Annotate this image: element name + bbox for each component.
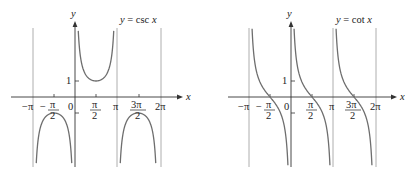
figure: y x y = csc x 1 0 −π π 2π − π 2 π 2 3π 2 bbox=[0, 0, 411, 185]
x-tick-label-neg-half-pi: − π 2 bbox=[256, 99, 275, 121]
y-axis-arrow-icon bbox=[289, 21, 294, 27]
svg-text:2: 2 bbox=[50, 110, 55, 121]
svg-text:π: π bbox=[308, 99, 314, 110]
chart-title: y = cot x bbox=[335, 14, 372, 25]
x-tick-label-half-pi: π 2 bbox=[90, 99, 101, 121]
y-tick-label-1: 1 bbox=[66, 75, 71, 86]
svg-text:2: 2 bbox=[266, 110, 271, 121]
x-axis-arrow-icon bbox=[391, 95, 397, 100]
x-tick-label-neg-pi: −π bbox=[22, 101, 34, 112]
y-axis-label: y bbox=[286, 8, 292, 19]
x-tick-label-three-half-pi: 3π 2 bbox=[130, 99, 146, 121]
x-tick-label-neg-half-pi: − π 2 bbox=[40, 99, 59, 121]
x-tick-label-pi: π bbox=[113, 101, 119, 112]
svg-text:π: π bbox=[50, 99, 56, 110]
csc-chart: y x y = csc x 1 0 −π π 2π − π 2 π 2 3π 2 bbox=[11, 8, 191, 167]
x-tick-label-pi: π bbox=[329, 101, 335, 112]
chart-title: y = csc x bbox=[119, 14, 157, 25]
cot-chart: y x y = cot x 1 0 −π π 2π − π 2 π 2 3π 2 bbox=[228, 8, 405, 167]
svg-text:3π: 3π bbox=[346, 99, 357, 110]
x-axis-label: x bbox=[399, 91, 405, 102]
svg-text:−: − bbox=[40, 101, 46, 112]
svg-text:3π: 3π bbox=[131, 99, 142, 110]
x-tick-label-0: 0 bbox=[68, 101, 73, 112]
csc-branch-pos bbox=[78, 31, 113, 81]
x-tick-label-neg-pi: −π bbox=[238, 101, 250, 112]
x-tick-label-2pi: 2π bbox=[370, 101, 381, 112]
x-axis-arrow-icon bbox=[177, 95, 183, 100]
svg-text:2: 2 bbox=[135, 110, 140, 121]
x-axis-label: x bbox=[185, 91, 191, 102]
x-tick-label-2pi: 2π bbox=[155, 101, 166, 112]
y-axis-arrow-icon bbox=[73, 21, 78, 27]
svg-text:2: 2 bbox=[308, 110, 313, 121]
svg-text:2: 2 bbox=[350, 110, 355, 121]
x-tick-label-0: 0 bbox=[284, 101, 289, 112]
y-tick-label-1: 1 bbox=[282, 75, 287, 86]
x-tick-label-half-pi: π 2 bbox=[306, 99, 317, 121]
svg-text:−: − bbox=[256, 101, 262, 112]
svg-text:2: 2 bbox=[92, 110, 97, 121]
y-axis-label: y bbox=[70, 8, 76, 19]
svg-text:π: π bbox=[266, 99, 272, 110]
svg-text:π: π bbox=[92, 99, 98, 110]
